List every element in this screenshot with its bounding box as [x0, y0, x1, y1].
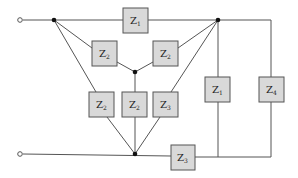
circuit-diagram: Z1 Z2 Z2 Z2 Z2 Z3 Z1 Z4 Z3 — [0, 0, 298, 178]
impedance-top: Z1 — [123, 8, 148, 33]
impedance-right-4: Z4 — [259, 77, 284, 102]
impedance-upper-left: Z2 — [92, 41, 117, 66]
impedance-upper-right: Z2 — [153, 41, 178, 66]
wires — [23, 20, 271, 157]
junction-nodes — [52, 18, 221, 157]
terminals — [18, 18, 23, 157]
impedance-right-1: Z1 — [205, 77, 230, 102]
impedance-mid-center: Z2 — [122, 92, 147, 117]
impedance-mid-right: Z3 — [153, 92, 178, 117]
impedance-bottom: Z3 — [171, 145, 195, 170]
node-center — [133, 70, 138, 75]
terminal-top — [18, 18, 23, 23]
node-bottom — [133, 152, 138, 157]
impedance-mid-left: Z2 — [89, 92, 114, 117]
terminal-bottom — [18, 152, 23, 157]
node-right — [216, 18, 221, 23]
node-left — [52, 18, 57, 23]
